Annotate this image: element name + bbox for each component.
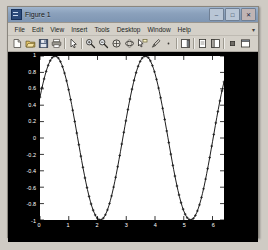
toolbar-separator xyxy=(80,38,84,49)
menu-item-view[interactable]: View xyxy=(47,26,68,33)
y-tick-label: 0.8 xyxy=(8,69,36,75)
zoom-in-icon[interactable] xyxy=(84,37,97,50)
x-tick-label: 2 xyxy=(91,222,103,228)
window-title: Figure 1 xyxy=(25,11,51,18)
maximize-button[interactable]: □ xyxy=(225,8,240,21)
y-tick-label: 1 xyxy=(8,52,36,58)
toolbar-separator xyxy=(63,38,67,49)
y-tick-label: 0.4 xyxy=(8,102,36,108)
y-tick-label: -0.6 xyxy=(8,185,36,191)
menu-item-desktop[interactable]: Desktop xyxy=(113,26,144,33)
toolbar-separator xyxy=(222,38,226,49)
menu-item-tools[interactable]: Tools xyxy=(91,26,113,33)
new-figure-icon[interactable] xyxy=(11,37,24,50)
title-bar[interactable]: Figure 1 – □ ✕ xyxy=(8,7,258,23)
x-tick-label: 1 xyxy=(62,222,74,228)
plot-axes[interactable] xyxy=(39,55,225,221)
y-tick-label: -0.4 xyxy=(8,168,36,174)
menu-item-edit[interactable]: Edit xyxy=(28,26,46,33)
hide-plot-tools-icon[interactable] xyxy=(209,37,222,50)
x-tick-label: 0 xyxy=(33,222,45,228)
zoom-out-icon[interactable] xyxy=(97,37,110,50)
y-tick-label: 0.6 xyxy=(8,85,36,91)
brush-icon[interactable] xyxy=(149,37,162,50)
menu-overflow-chevron-icon[interactable]: ▾ xyxy=(252,26,255,33)
pan-icon[interactable] xyxy=(110,37,123,50)
show-plot-tools-icon[interactable] xyxy=(239,37,252,50)
toolbar-separator xyxy=(175,38,179,49)
window-controls: – □ ✕ xyxy=(209,8,256,21)
print-figure-icon[interactable] xyxy=(50,37,63,50)
colorbar-icon[interactable] xyxy=(179,37,192,50)
legend-icon[interactable] xyxy=(196,37,209,50)
rotate-3d-icon[interactable] xyxy=(123,37,136,50)
x-tick-label: 4 xyxy=(149,222,161,228)
save-figure-icon[interactable] xyxy=(37,37,50,50)
figure-window: Figure 1 – □ ✕ File Edit View Insert Too… xyxy=(7,6,259,238)
x-tick-label: 6 xyxy=(207,222,219,228)
figure-canvas[interactable]: -1-0.8-0.6-0.4-0.200.20.40.60.81 0123456 xyxy=(8,52,258,240)
toolbar xyxy=(8,36,258,52)
x-tick-label: 3 xyxy=(120,222,132,228)
open-file-icon[interactable] xyxy=(24,37,37,50)
edit-plot-arrow-icon[interactable] xyxy=(67,37,80,50)
menu-item-file[interactable]: File xyxy=(11,26,28,33)
menu-item-insert[interactable]: Insert xyxy=(68,26,91,33)
y-tick-label: 0.2 xyxy=(8,118,36,124)
dock-figure-icon[interactable] xyxy=(226,37,239,50)
plot-series-cos xyxy=(40,56,224,220)
y-tick-label: 0 xyxy=(8,135,36,141)
desktop-background: Figure 1 – □ ✕ File Edit View Insert Too… xyxy=(0,0,268,250)
toolbar-separator xyxy=(192,38,196,49)
x-tick-label: 5 xyxy=(178,222,190,228)
link-plot-icon[interactable] xyxy=(162,37,175,50)
menu-item-help[interactable]: Help xyxy=(174,26,194,33)
figure-bottom-strip xyxy=(8,240,258,242)
y-tick-label: -0.8 xyxy=(8,201,36,207)
minimize-button[interactable]: – xyxy=(209,8,224,21)
close-button[interactable]: ✕ xyxy=(241,8,256,21)
menu-bar: File Edit View Insert Tools Desktop Wind… xyxy=(8,23,258,36)
data-cursor-icon[interactable] xyxy=(136,37,149,50)
y-tick-label: -1 xyxy=(8,218,36,224)
matlab-figure-icon xyxy=(11,9,22,20)
y-tick-label: -0.2 xyxy=(8,152,36,158)
menu-item-window[interactable]: Window xyxy=(144,26,174,33)
